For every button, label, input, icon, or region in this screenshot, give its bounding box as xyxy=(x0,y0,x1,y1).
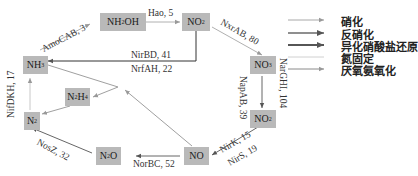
legend-label-anammox: 厌氧氨氧化 xyxy=(341,62,396,78)
